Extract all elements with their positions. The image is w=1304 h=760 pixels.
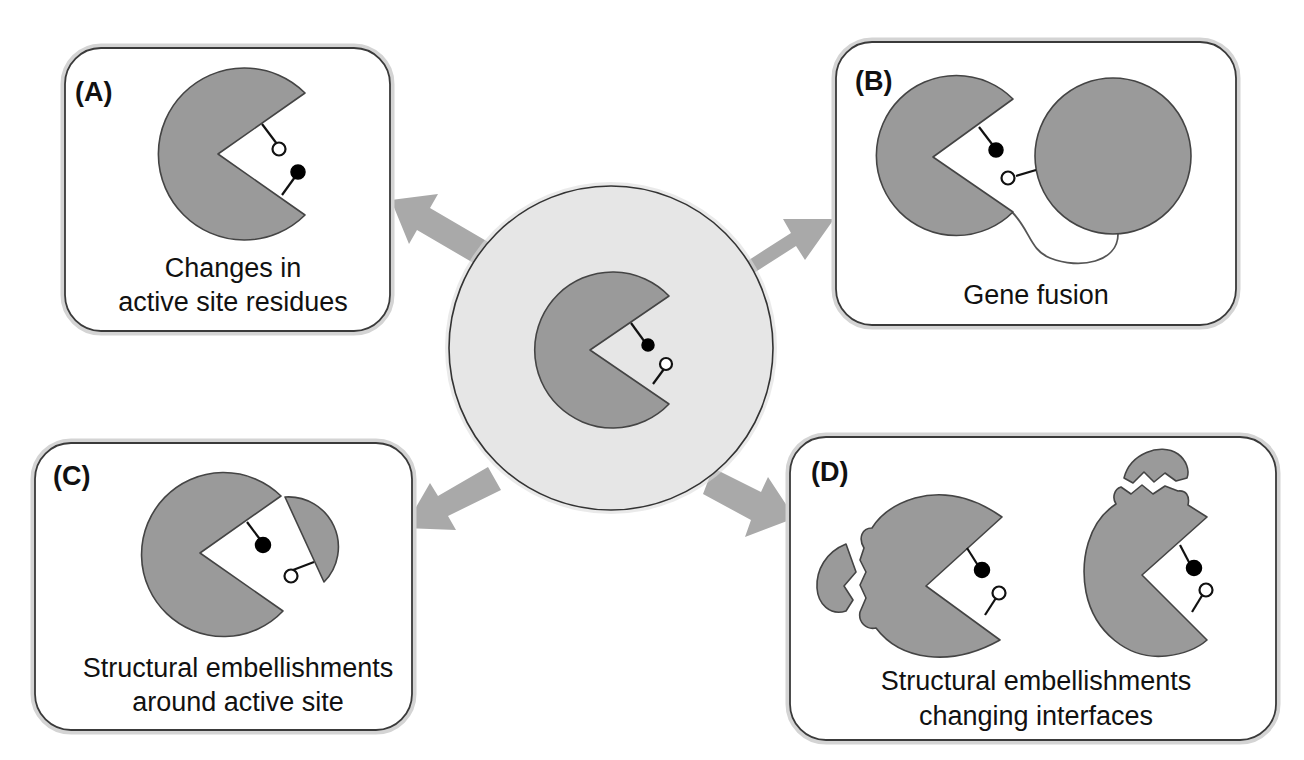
panel-a: (A) Changes in active site residues <box>65 48 390 331</box>
filled-residue-icon <box>989 143 1003 157</box>
filled-residue-icon <box>642 339 654 351</box>
filled-residue-icon <box>256 538 271 553</box>
panel-c-caption-line-2: around active site <box>132 687 344 717</box>
panel-d-label: (D) <box>811 457 848 487</box>
arrow-to-panel-c <box>404 467 501 530</box>
panel-c-label: (C) <box>53 461 90 491</box>
panel-a-caption-line-2: active site residues <box>118 287 348 317</box>
center-circle <box>449 186 773 510</box>
open-residue-icon <box>1002 172 1015 185</box>
open-residue-icon <box>660 358 672 370</box>
panel-b: (B) Gene fusion <box>836 42 1236 325</box>
panel-d-caption-line-1: Structural embellishments <box>881 666 1192 696</box>
panel-c: (C) Structural embellishments around act… <box>35 443 412 730</box>
filled-residue-icon <box>1187 561 1202 576</box>
filled-residue-icon <box>291 165 305 179</box>
panel-d-caption-line-2: changing interfaces <box>919 701 1153 731</box>
panel-b-label: (B) <box>855 66 892 96</box>
open-residue-icon <box>993 587 1006 600</box>
enzyme-evolution-diagram: (A) Changes in active site residues (B) … <box>0 0 1304 760</box>
center-ancestral-enzyme <box>445 182 777 514</box>
panel-d: (D) Structural embellishments changing i… <box>790 437 1276 740</box>
open-residue-icon <box>1200 584 1213 597</box>
panel-a-caption-line-1: Changes in <box>165 253 302 283</box>
arrow-to-panel-d <box>703 468 795 537</box>
panel-a-label: (A) <box>75 77 112 107</box>
panel-b-caption-line-1: Gene fusion <box>963 280 1109 310</box>
panel-c-caption-line-1: Structural embellishments <box>83 653 394 683</box>
open-residue-icon <box>273 143 286 156</box>
panel-b-fused-domain <box>1035 78 1191 234</box>
open-residue-icon <box>285 570 298 583</box>
filled-residue-icon <box>975 563 990 578</box>
